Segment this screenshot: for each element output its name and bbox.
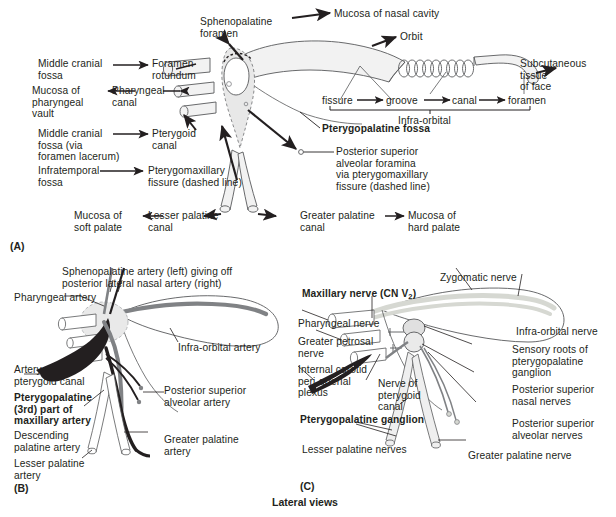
- figure-caption: Lateral views: [272, 496, 338, 508]
- label-lesser-palatine-nerves: Lesser palatine nerves: [302, 444, 407, 456]
- maxillary-nerve-paren: ): [413, 288, 417, 299]
- label-descending-palatine-artery: Descending palatine artery: [14, 430, 80, 453]
- label-pterygomaxillary-fissure: Pterygomaxillary fissure (dashed line): [148, 165, 242, 188]
- label-zygomatic-nerve: Zygomatic nerve: [440, 272, 517, 284]
- panel-label-c: (C): [300, 480, 315, 492]
- label-greater-palatine-nerve: Greater palatine nerve: [468, 450, 572, 462]
- label-mucosa-soft-palate: Mucosa of soft palate: [74, 210, 122, 233]
- label-pharyngeal-canal: Pharyngeal canal: [112, 85, 165, 108]
- label-greater-petrosal-nerve: Greater petrosal nerve: [298, 336, 373, 359]
- label-internal-carotid-plexus: Internal carotid peri-arterial plexus: [298, 364, 367, 399]
- label-middle-cranial-fossa: Middle cranial fossa: [38, 58, 102, 81]
- label-pharyngeal-nerve: Pharyngeal nerve: [298, 318, 380, 330]
- label-infraorbital-bracket: Infra-orbital: [398, 115, 451, 127]
- label-posterior-superior-alveolar-nerves: Posterior superior alveolar nerves: [512, 418, 594, 441]
- label-pterygopalatine-ganglion: Pterygopalatine ganglion: [300, 414, 424, 426]
- label-pharyngeal-artery: Pharyngeal artery: [14, 292, 96, 304]
- label-greater-palatine-artery: Greater palatine artery: [164, 434, 239, 457]
- label-mucosa-pharyngeal-vault: Mucosa of pharyngeal vault: [32, 85, 83, 120]
- label-lesser-palatine-artery: Lesser palatine artery: [14, 458, 85, 481]
- label-infraorbital-fissure: fissure: [322, 95, 353, 107]
- label-pterygopalatine-maxillary-artery: Pterygopalatine (3rd) part of maxillary …: [14, 392, 92, 427]
- label-infraorbital-canal: canal: [452, 95, 477, 107]
- label-foramen-rotundum: Foramen rotundum: [152, 58, 196, 81]
- label-middle-cranial-fossa-lacerum: Middle cranial fossa (via foramen laceru…: [38, 128, 119, 163]
- label-maxillary-nerve: Maxillary nerve (CN V2): [302, 288, 416, 302]
- label-posterior-superior-nasal-nerves: Posterior superior nasal nerves: [512, 384, 594, 407]
- label-infraorbital-nerve: Infra-orbital nerve: [516, 326, 598, 338]
- label-infraorbital-groove: groove: [386, 95, 418, 107]
- label-lesser-palatine-canal: Lesser palatine canal: [148, 210, 219, 233]
- label-artery-of-pterygoid-canal: Artery of pterygoid canal: [14, 364, 85, 387]
- label-greater-palatine-canal: Greater palatine canal: [300, 210, 375, 233]
- label-infraorbital-artery: Infra-orbital artery: [178, 342, 260, 354]
- label-sphenopalatine-artery: Sphenopalatine artery (left) giving off …: [62, 266, 232, 289]
- label-pterygoid-canal: Pterygoid canal: [152, 128, 196, 151]
- label-posterior-superior-alveolar-artery: Posterior superior alveolar artery: [164, 385, 246, 408]
- maxillary-nerve-text: Maxillary nerve (CN V: [302, 288, 408, 299]
- label-infraorbital-foramen: foramen: [508, 95, 546, 107]
- label-orbit: Orbit: [400, 31, 423, 43]
- panel-label-b: (B): [14, 482, 29, 494]
- label-infratemporal-fossa: Infratemporal fossa: [38, 165, 99, 188]
- label-mucosa-nasal-cavity: Mucosa of nasal cavity: [334, 8, 439, 20]
- label-subcutaneous-tissue-face: Subcutaneous tissue of face: [520, 58, 586, 93]
- label-sensory-roots: Sensory roots of pterygopalatine ganglio…: [512, 344, 588, 379]
- label-mucosa-hard-palate: Mucosa of hard palate: [408, 210, 460, 233]
- label-nerve-of-pterygoid-canal: Nerve of pterygoid canal: [378, 378, 421, 413]
- label-posterior-superior-alveolar-foramina: Posterior superior alveolar foramina via…: [336, 146, 430, 192]
- panel-label-a: (A): [10, 240, 25, 252]
- label-sphenopalatine-foramen: Sphenopalatine foramen: [200, 16, 272, 39]
